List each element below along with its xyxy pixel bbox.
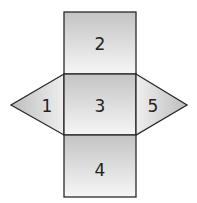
face-4: 4 xyxy=(64,135,136,197)
face-label-5: 5 xyxy=(148,96,159,116)
face-3: 3 xyxy=(64,74,136,135)
face-label-1: 1 xyxy=(42,96,53,116)
face-1: 1 xyxy=(11,74,64,135)
face-label-4: 4 xyxy=(95,160,106,180)
net-diagram: 2 1 3 5 4 xyxy=(0,0,197,203)
face-5: 5 xyxy=(136,74,187,135)
face-label-3: 3 xyxy=(95,96,106,116)
face-label-2: 2 xyxy=(95,34,106,54)
face-2: 2 xyxy=(64,12,136,74)
